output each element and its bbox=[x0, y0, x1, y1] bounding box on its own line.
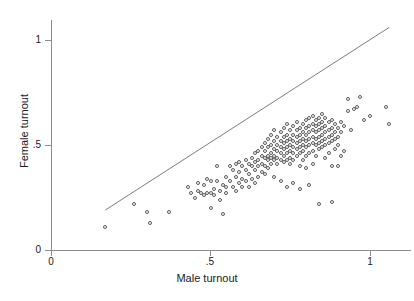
data-point bbox=[336, 164, 340, 168]
data-point bbox=[317, 116, 321, 120]
data-point bbox=[189, 191, 193, 195]
data-point bbox=[253, 181, 257, 185]
data-point bbox=[253, 168, 257, 172]
data-point bbox=[215, 164, 219, 168]
data-point bbox=[247, 172, 251, 176]
data-point bbox=[342, 124, 346, 128]
data-point bbox=[231, 168, 235, 172]
data-point bbox=[323, 156, 327, 160]
data-point bbox=[244, 158, 248, 162]
data-point bbox=[346, 97, 350, 101]
data-point bbox=[250, 177, 254, 181]
data-point bbox=[362, 118, 366, 122]
data-point bbox=[282, 126, 286, 130]
data-point bbox=[279, 179, 283, 183]
data-point bbox=[288, 162, 292, 166]
data-point bbox=[384, 105, 388, 109]
data-point bbox=[234, 175, 238, 179]
data-point bbox=[320, 112, 324, 116]
data-point bbox=[167, 210, 171, 214]
data-point bbox=[240, 164, 244, 168]
data-point bbox=[247, 185, 251, 189]
data-point bbox=[275, 162, 279, 166]
data-point bbox=[209, 179, 213, 183]
data-point bbox=[311, 162, 315, 166]
data-point bbox=[298, 187, 302, 191]
data-point bbox=[250, 156, 254, 160]
data-point bbox=[103, 225, 107, 229]
data-point bbox=[218, 198, 222, 202]
data-point bbox=[215, 179, 219, 183]
data-point bbox=[327, 151, 331, 155]
data-point bbox=[285, 133, 289, 137]
data-point bbox=[368, 114, 372, 118]
data-point bbox=[301, 158, 305, 162]
data-point bbox=[314, 154, 318, 158]
data-point bbox=[330, 164, 334, 168]
data-point bbox=[212, 193, 216, 197]
data-point bbox=[304, 166, 308, 170]
data-point bbox=[212, 187, 216, 191]
scatter-plot: 0 .5 1 0 .5 1 Male turnout Female turnou… bbox=[0, 0, 414, 301]
data-point bbox=[333, 147, 337, 151]
data-point bbox=[333, 130, 337, 134]
data-point bbox=[295, 120, 299, 124]
data-point bbox=[269, 133, 273, 137]
data-point bbox=[291, 158, 295, 162]
data-point bbox=[234, 189, 238, 193]
data-point bbox=[224, 185, 228, 189]
data-point bbox=[272, 128, 276, 132]
data-point bbox=[148, 221, 152, 225]
data-point bbox=[266, 166, 270, 170]
data-point bbox=[209, 206, 213, 210]
data-point bbox=[307, 183, 311, 187]
data-point bbox=[349, 128, 353, 132]
data-point bbox=[237, 170, 241, 174]
data-point bbox=[330, 200, 334, 204]
data-point bbox=[263, 149, 267, 153]
data-point bbox=[256, 175, 260, 179]
data-point bbox=[224, 175, 228, 179]
data-point bbox=[323, 116, 327, 120]
data-point bbox=[186, 185, 190, 189]
data-point bbox=[336, 135, 340, 139]
data-point bbox=[355, 105, 359, 109]
data-point bbox=[336, 143, 340, 147]
data-point bbox=[317, 202, 321, 206]
data-point bbox=[263, 172, 267, 176]
data-point bbox=[272, 175, 276, 179]
data-point bbox=[339, 154, 343, 158]
data-point bbox=[228, 179, 232, 183]
data-point bbox=[311, 149, 315, 153]
data-point bbox=[342, 149, 346, 153]
data-point bbox=[240, 185, 244, 189]
data-point bbox=[221, 212, 225, 216]
data-point bbox=[358, 95, 362, 99]
data-point bbox=[301, 149, 305, 153]
data-point bbox=[269, 162, 273, 166]
data-point bbox=[224, 191, 228, 195]
data-point bbox=[298, 164, 302, 168]
data-point bbox=[256, 149, 260, 153]
data-point bbox=[218, 189, 222, 193]
data-point bbox=[288, 128, 292, 132]
data-point bbox=[256, 158, 260, 162]
data-point bbox=[279, 130, 283, 134]
data-point bbox=[346, 109, 350, 113]
data-point bbox=[244, 179, 248, 183]
data-point bbox=[193, 196, 197, 200]
data-point bbox=[145, 210, 149, 214]
data-point bbox=[330, 118, 334, 122]
data-point bbox=[275, 135, 279, 139]
data-point bbox=[132, 202, 136, 206]
data-point bbox=[202, 183, 206, 187]
data-point bbox=[311, 114, 315, 118]
data-point bbox=[291, 181, 295, 185]
data-point bbox=[339, 130, 343, 134]
data-point bbox=[285, 185, 289, 189]
data-point bbox=[196, 181, 200, 185]
data-point bbox=[387, 122, 391, 126]
data-point bbox=[285, 122, 289, 126]
data-point bbox=[266, 137, 270, 141]
data-points-layer bbox=[0, 0, 414, 301]
